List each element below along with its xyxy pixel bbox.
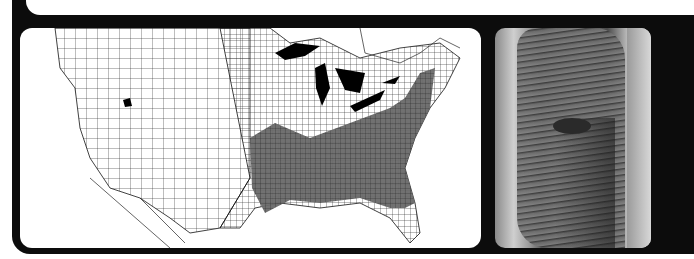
photo-background [627,28,651,248]
trunk-shadow [555,118,615,248]
page-margin [0,0,12,259]
us-county-map [20,28,481,248]
top-strip [26,0,694,15]
bark-photo [495,28,651,248]
western-us [55,28,250,233]
bark-knot [553,118,591,134]
range-map [20,28,481,248]
